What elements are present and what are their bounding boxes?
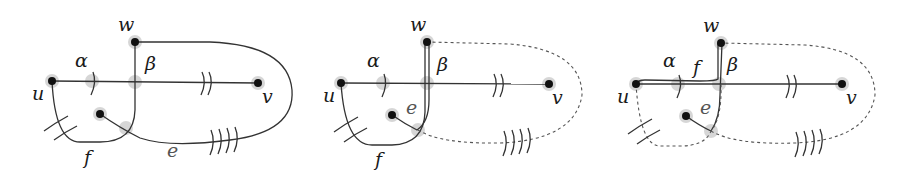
node-v — [254, 79, 262, 87]
node-u — [632, 80, 640, 88]
node-v — [838, 80, 846, 88]
tick-uv-2 — [500, 74, 503, 97]
tick-e-4 — [527, 128, 530, 153]
label-e: e — [406, 96, 417, 118]
label-u: u — [617, 85, 629, 107]
node-inner — [388, 111, 396, 119]
label-beta: β — [144, 52, 156, 74]
tick-e-1 — [503, 131, 506, 156]
tick-f-1 — [628, 119, 652, 134]
panel-2: w α β u v e f — [323, 13, 582, 170]
label-alpha: α — [663, 49, 676, 71]
label-w: w — [118, 13, 134, 35]
label-alpha: α — [75, 49, 88, 71]
node-u — [48, 77, 56, 85]
label-w: w — [410, 13, 426, 35]
tick-uv-2 — [208, 72, 211, 95]
tick-f-2 — [637, 130, 660, 144]
label-e: e — [167, 139, 178, 161]
graph-figure: w α β u v f e w α — [0, 0, 908, 185]
node-inner — [682, 112, 690, 120]
tick-uv-1 — [786, 75, 789, 98]
label-u: u — [323, 84, 335, 106]
tick-e-4 — [819, 129, 822, 154]
label-v: v — [552, 86, 563, 108]
tick-uv-1 — [493, 74, 496, 97]
label-beta: β — [436, 53, 448, 75]
label-f: f — [82, 146, 94, 168]
panel-1: w α β u v f e — [32, 13, 292, 168]
label-e: e — [700, 96, 711, 118]
tick-e-1 — [795, 132, 798, 157]
node-w — [717, 39, 725, 47]
label-v: v — [846, 86, 857, 108]
label-v: v — [262, 85, 273, 107]
tick-e-3 — [811, 130, 814, 155]
tick-f-1 — [334, 117, 358, 132]
edge-uv — [52, 81, 258, 83]
label-w: w — [703, 14, 719, 36]
label-alpha: α — [367, 49, 380, 71]
node-u — [337, 79, 345, 87]
node-w — [131, 38, 139, 46]
tick-f-1 — [44, 116, 68, 131]
node-w — [423, 38, 431, 46]
tick-e-2 — [803, 131, 806, 156]
tick-f-2 — [54, 126, 77, 140]
tick-uv-2 — [793, 75, 796, 98]
label-f: f — [691, 56, 703, 78]
label-u: u — [32, 82, 44, 104]
panel-3: w α f β u v e — [617, 14, 875, 157]
label-beta: β — [726, 53, 738, 75]
tick-uv-1 — [201, 72, 204, 95]
edge-uv — [341, 83, 549, 84]
label-f: f — [373, 148, 385, 170]
node-inner — [96, 110, 104, 118]
tick-f-2 — [344, 128, 367, 142]
